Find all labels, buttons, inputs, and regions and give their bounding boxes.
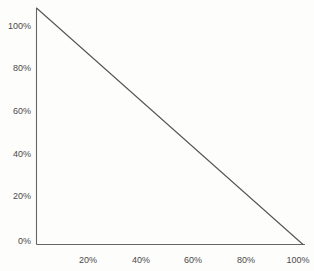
x-tick-label-40: 40%: [121, 255, 161, 265]
x-tick-label-20: 20%: [68, 255, 108, 265]
y-tick-label-80: 80%: [0, 63, 31, 73]
x-tick-label-80: 80%: [226, 255, 266, 265]
x-tick-label-60: 60%: [173, 255, 213, 265]
y-tick-label-60: 60%: [0, 106, 31, 116]
y-tick-label-20: 20%: [0, 191, 31, 201]
chart-background: [0, 0, 314, 271]
y-tick-label-40: 40%: [0, 149, 31, 159]
y-tick-label-0: 0%: [0, 236, 31, 246]
chart-container: 100% 80% 60% 40% 20% 0% 20% 40% 60% 80% …: [0, 0, 314, 271]
x-tick-label-100: 100%: [278, 255, 314, 265]
chart-canvas: [0, 0, 314, 271]
y-tick-label-100: 100%: [0, 21, 31, 31]
